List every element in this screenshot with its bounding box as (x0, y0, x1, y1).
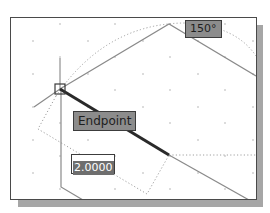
polar-tracking-arc (56, 23, 256, 96)
polar-angle-tooltip: 150° (185, 20, 222, 38)
grid-dots (32, 23, 254, 190)
drawing-geometry (11, 18, 256, 199)
viewport-shadow-bottom (18, 199, 263, 207)
viewport-shadow-right (256, 25, 263, 207)
drawing-canvas[interactable]: 150° Endpoint 2.0000 (10, 17, 257, 200)
dynamic-input-value[interactable]: 2.0000 (73, 161, 114, 175)
existing-polyline-left (61, 89, 83, 199)
dynamic-input-length-field[interactable]: 2.0000 (71, 154, 115, 174)
object-snap-tooltip: Endpoint (73, 111, 136, 131)
existing-line-lower-right (169, 155, 249, 199)
